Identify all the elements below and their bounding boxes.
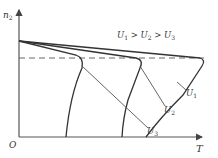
x-axis-label: T: [196, 143, 204, 154]
curve-label-u2: U2: [164, 105, 175, 116]
origin-label: O: [9, 140, 17, 150]
leader-u3: [82, 66, 148, 128]
curve-u2: [19, 41, 141, 137]
curve-u3: [19, 41, 82, 137]
relation-text: U1 > U2 > U3: [117, 30, 175, 41]
leader-u2: [140, 66, 165, 106]
leader-u1: [177, 82, 186, 90]
speed-torque-diagram: n2 T O U1 > U2 > U3 U1 U2 U3: [0, 0, 218, 158]
curve-u1: [19, 41, 204, 137]
curve-label-u1: U1: [186, 88, 197, 99]
y-axis-label: n2: [3, 10, 13, 21]
curve-label-u3: U3: [147, 126, 158, 137]
